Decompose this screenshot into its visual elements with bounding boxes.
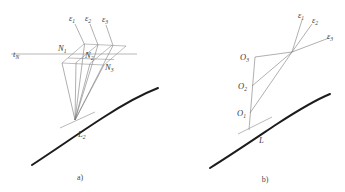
panel-a-plane-label-n1: N1 — [57, 43, 67, 54]
panel-a-ray-epsilon-1 — [75, 24, 85, 45]
panel-b-point-label-o1: O1 — [237, 108, 246, 119]
panel-b: O3 O2 O1 ε1 ε2 ε3 L b) — [210, 10, 333, 184]
panel-b-ray-label-epsilon-3: ε3 — [327, 31, 333, 42]
panel-b-point-label-o3: O3 — [240, 52, 249, 63]
panel-a-ray-label-epsilon-2: ε2 — [85, 13, 91, 24]
panel-a-plane-parallelogram — [62, 44, 126, 65]
panel-a-curve — [32, 88, 158, 165]
panel-b-ray-label-epsilon-2: ε2 — [312, 15, 318, 26]
panel-b-ray-epsilon-2 — [292, 24, 312, 52]
panel-b-ray-epsilon-1 — [292, 20, 302, 52]
panel-a-caption: a) — [77, 173, 84, 182]
panel-a-converging-line-6 — [75, 64, 90, 121]
panel-a-converging-line-1 — [75, 45, 85, 121]
panel-a-converging-line-4 — [62, 63, 75, 120]
panel-a-axis-label: tN — [13, 49, 19, 60]
panel-a-plane-label-n3: N3 — [104, 62, 114, 73]
geometry-figure: tN N1 N2 N3 ε1 ε2 ε3 L2 a) — [0, 0, 345, 192]
panel-a-ray-label-epsilon-3: ε3 — [102, 14, 108, 25]
panel-b-line-from-o3 — [255, 52, 292, 57]
panel-b-ray-epsilon-3 — [292, 38, 329, 52]
panel-b-ray-label-epsilon-1: ε1 — [298, 10, 304, 21]
panel-b-caption: b) — [262, 175, 269, 184]
panel-a-ray-epsilon-2 — [90, 24, 98, 45]
panel-a-plane-label-n2: N2 — [84, 50, 94, 61]
panel-b-curve — [210, 94, 330, 168]
panel-b-vertical-line — [249, 57, 255, 130]
panel-a-ray-epsilon-3 — [106, 25, 113, 46]
panel-a: tN N1 N2 N3 ε1 ε2 ε3 L2 a) — [11, 13, 158, 182]
panel-b-point-label-o2: O2 — [238, 81, 247, 92]
panel-b-curve-label: L — [258, 135, 264, 145]
panel-a-ray-label-epsilon-1: ε1 — [69, 13, 75, 24]
